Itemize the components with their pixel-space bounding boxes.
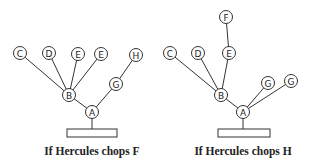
- node-label: G: [265, 79, 272, 89]
- node-a: A: [237, 106, 250, 119]
- node-g: G: [110, 78, 123, 91]
- tree-base: [67, 129, 117, 137]
- node-label: G: [113, 80, 120, 90]
- node-h: H: [130, 49, 143, 62]
- edge-b-d: [198, 53, 221, 95]
- node-label: E: [226, 49, 232, 59]
- node-label: E: [98, 50, 104, 60]
- node-b: B: [63, 89, 76, 102]
- tree-edges: [170, 17, 291, 112]
- node-c: C: [164, 47, 177, 60]
- node-c: C: [14, 47, 27, 60]
- tree-nodes: ABCDEEGH: [14, 47, 143, 119]
- node-label: G: [288, 77, 295, 87]
- node-label: A: [240, 108, 247, 118]
- node-a: A: [86, 106, 99, 119]
- hydra-tree-diagrams: ABCDEEGH If Hercules chops F ABCDEFGG If…: [0, 0, 309, 163]
- node-label: B: [218, 91, 224, 101]
- node-d: D: [43, 47, 56, 60]
- tree-base: [218, 129, 270, 137]
- node-f: F: [220, 11, 233, 24]
- diagram-chops-h: ABCDEFGG If Hercules chops H: [164, 11, 298, 159]
- node-label: C: [17, 49, 23, 59]
- caption-chops-h: If Hercules chops H: [194, 145, 291, 158]
- node-label: A: [89, 108, 96, 118]
- node-g2: G: [285, 75, 298, 88]
- node-label: H: [133, 51, 140, 61]
- node-label: B: [66, 91, 72, 101]
- node-e1: E: [72, 48, 85, 61]
- node-label: D: [195, 49, 202, 59]
- node-b: B: [215, 89, 228, 102]
- node-label: D: [46, 49, 53, 59]
- node-d: D: [192, 47, 205, 60]
- node-e: E: [223, 47, 236, 60]
- node-label: F: [223, 13, 228, 23]
- edge-b-c: [20, 53, 69, 95]
- node-label: C: [167, 49, 173, 59]
- caption-chops-f: If Hercules chops F: [44, 145, 139, 158]
- node-g1: G: [262, 77, 275, 90]
- node-e2: E: [95, 48, 108, 61]
- node-label: E: [75, 50, 81, 60]
- diagram-chops-f: ABCDEEGH If Hercules chops F: [14, 47, 143, 159]
